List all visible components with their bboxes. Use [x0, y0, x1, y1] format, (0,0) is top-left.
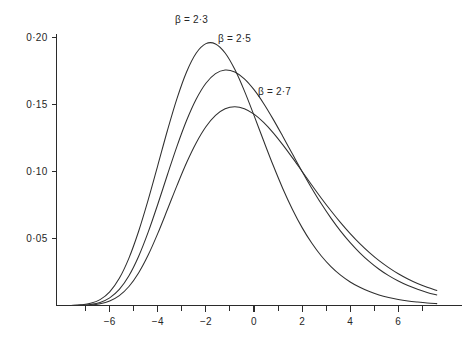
- y-tick-label: 0·10: [26, 166, 47, 177]
- x-tick-label: 4: [347, 316, 353, 327]
- y-tick-label: 0·20: [26, 32, 47, 43]
- x-tick-label: 0: [251, 316, 257, 327]
- x-tick-label: −2: [200, 316, 212, 327]
- curve-label-1: β = 2·3: [175, 14, 208, 25]
- y-tick-label: 0·05: [26, 233, 47, 244]
- x-tick-label: −6: [104, 316, 116, 327]
- x-tick-label: −4: [152, 316, 164, 327]
- curve-label-2: β = 2·5: [218, 33, 251, 44]
- plot-background: [0, 0, 468, 338]
- x-tick-label: 6: [395, 316, 401, 327]
- y-tick-label: 0·15: [26, 99, 47, 110]
- curve-label-3: β = 2·7: [258, 86, 291, 97]
- probability-density-plot: 0·050·100·150·20 −6−4−20246 β = 2·3β = 2…: [0, 0, 468, 338]
- x-tick-label: 2: [299, 316, 305, 327]
- chart-figure: 0·050·100·150·20 −6−4−20246 β = 2·3β = 2…: [0, 0, 468, 338]
